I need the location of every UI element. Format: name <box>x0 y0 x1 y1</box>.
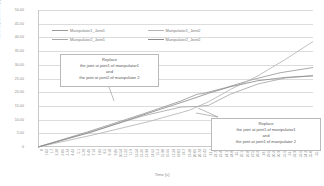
x-tick-label: 20.06 <box>193 149 197 157</box>
legend-swatch-icon <box>52 39 68 40</box>
legend-label: Manipulator1_Joint2 <box>166 28 201 33</box>
x-tick-label: 18.02 <box>177 149 181 157</box>
y-tick-label: 20.00 <box>0 90 24 94</box>
x-tick-label: 1.7 <box>50 149 54 154</box>
x-tick-label: 1.02 <box>45 149 49 155</box>
y-tick-label: 40.00 <box>0 35 24 39</box>
y-axis-title: Joint displacement [s] <box>0 0 1 38</box>
replace-callout-2: Replace the joint at joint1 of manipulat… <box>211 118 321 151</box>
y-tick-label: 50.00 <box>0 8 24 12</box>
y-tick-label: 0 <box>0 145 24 149</box>
x-tick-label: 3.06 <box>61 149 65 155</box>
x-tick-label: 2.38 <box>55 149 59 155</box>
x-axis-ticks: 01.021.72.383.063.744.425.15.786.467.147… <box>38 149 313 171</box>
legend-label: Manipulator2_Joint2 <box>166 37 201 42</box>
legend-item-manipulator2-joint2: Manipulator2_Joint2 <box>148 36 238 45</box>
chart-legend: Manipulator1_Joint1 Manipulator1_Joint2 … <box>52 26 237 44</box>
legend-swatch-icon <box>52 30 68 31</box>
x-tick-label: 0 <box>40 149 44 151</box>
x-tick-label: 11.22 <box>124 149 128 157</box>
y-tick-label: 5.00 <box>0 131 24 135</box>
x-tick-label: 5.78 <box>82 149 86 155</box>
y-tick-label: 45.00 <box>0 22 24 26</box>
x-tick-label: 5.1 <box>77 149 81 154</box>
x-tick-label: 12.58 <box>135 149 139 157</box>
y-tick-label: 10.00 <box>0 118 24 122</box>
callout-line: the joint at joint2 of manipulator 2 <box>64 75 155 81</box>
legend-item-manipulator1-joint1: Manipulator1_Joint1 <box>52 26 142 35</box>
legend-item-manipulator1-joint2: Manipulator1_Joint2 <box>148 26 238 35</box>
legend-item-manipulator2-joint1: Manipulator2_Joint1 <box>52 36 142 45</box>
x-tick-label: 21.42 <box>203 149 207 157</box>
legend-label: Manipulator2_Joint1 <box>70 37 105 42</box>
x-tick-label: 7.82 <box>98 149 102 155</box>
x-tick-label: 8.5 <box>103 149 107 154</box>
x-tick-label: 16.66 <box>166 149 170 157</box>
x-tick-label: 17.34 <box>172 149 176 157</box>
x-tick-label: 3.74 <box>66 149 70 155</box>
x-tick-label: 7.14 <box>92 149 96 155</box>
x-tick-label: 14.62 <box>151 149 155 157</box>
x-tick-label: 15.98 <box>161 149 165 157</box>
x-tick-label: 9.18 <box>108 149 112 155</box>
x-tick-label: 4.42 <box>71 149 75 155</box>
x-tick-label: 10.54 <box>119 149 123 157</box>
x-tick-label: 15.3 <box>156 149 160 155</box>
chart-figure: 50.0045.0040.0035.0030.0025.0020.0015.00… <box>0 0 324 186</box>
x-axis-title: Time [s] <box>0 172 324 177</box>
x-tick-label: 20.74 <box>198 149 202 157</box>
x-tick-label: 9.86 <box>114 149 118 155</box>
x-tick-label: 19.38 <box>188 149 192 157</box>
x-tick-label: 13.26 <box>140 149 144 157</box>
legend-swatch-icon <box>148 30 164 31</box>
y-tick-label: 35.00 <box>0 49 24 53</box>
legend-label: Manipulator1_Joint1 <box>70 28 105 33</box>
legend-swatch-icon <box>148 39 164 40</box>
y-tick-label: 15.00 <box>0 104 24 108</box>
x-tick-label: 13.94 <box>145 149 149 157</box>
x-tick-label: 6.46 <box>87 149 91 155</box>
callout-line: the joint at joint1 of manipulator 2 <box>215 139 317 145</box>
y-tick-label: 25.00 <box>0 77 24 81</box>
y-tick-label: 30.00 <box>0 63 24 67</box>
x-tick-label: 18.7 <box>182 149 186 155</box>
x-tick-label: 11.9 <box>129 149 133 155</box>
replace-callout-1: Replace the joint at joint1 of manipulat… <box>60 54 159 87</box>
